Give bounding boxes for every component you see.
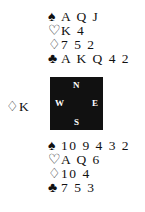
north-spades-cards: A Q J [61,9,99,24]
diamond-icon: ♢ [48,167,61,181]
south-hearts-cards: A Q 6 [61,152,101,167]
south-diamonds: ♢10 4 [48,167,130,181]
compass-box: N W E S [50,77,103,130]
heart-icon: ♡ [48,24,61,38]
south-hand: ♠10 9 4 3 2 ♡A Q 6 ♢10 4 ♣7 5 3 [48,139,130,195]
north-diamonds-cards: 7 5 2 [61,37,96,52]
west-played-card: ♢K [6,100,30,114]
south-diamonds-cards: 10 4 [61,166,91,181]
compass-west: W [55,98,64,108]
diamond-icon: ♢ [48,38,61,52]
south-clubs-cards: 7 5 3 [61,180,96,195]
spade-icon: ♠ [48,10,61,24]
north-hand: ♠A Q J ♡K 4 ♢7 5 2 ♣A K Q 4 2 [48,10,130,66]
south-spades: ♠10 9 4 3 2 [48,139,130,153]
north-hearts: ♡K 4 [48,24,130,38]
club-icon: ♣ [48,181,61,195]
west-card: K [19,99,30,114]
club-icon: ♣ [48,52,61,66]
north-diamonds: ♢7 5 2 [48,38,130,52]
compass-south: S [74,117,79,127]
spade-icon: ♠ [48,139,61,153]
north-clubs: ♣A K Q 4 2 [48,52,130,66]
compass-north: N [73,80,80,90]
compass-east: E [92,98,98,108]
south-clubs: ♣7 5 3 [48,181,130,195]
diamond-icon: ♢ [6,100,19,114]
heart-icon: ♡ [48,153,61,167]
north-clubs-cards: A K Q 4 2 [61,51,130,66]
south-spades-cards: 10 9 4 3 2 [61,138,130,153]
north-spades: ♠A Q J [48,10,130,24]
north-hearts-cards: K 4 [61,23,85,38]
south-hearts: ♡A Q 6 [48,153,130,167]
